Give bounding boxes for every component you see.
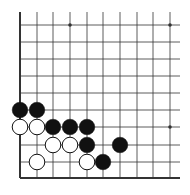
black-stone[interactable] bbox=[45, 119, 61, 135]
white-stone[interactable] bbox=[29, 154, 45, 170]
black-stone[interactable] bbox=[29, 102, 45, 118]
white-stone[interactable] bbox=[79, 154, 95, 170]
black-stone[interactable] bbox=[79, 119, 95, 135]
white-stone[interactable] bbox=[45, 137, 61, 153]
black-stone[interactable] bbox=[112, 137, 128, 153]
white-stone[interactable] bbox=[12, 119, 28, 135]
go-board[interactable] bbox=[0, 0, 190, 195]
star-point bbox=[168, 125, 172, 129]
black-stone[interactable] bbox=[79, 137, 95, 153]
white-stone[interactable] bbox=[62, 137, 78, 153]
white-stone[interactable] bbox=[29, 119, 45, 135]
board-grid bbox=[20, 12, 180, 178]
star-point bbox=[168, 23, 172, 27]
black-stone[interactable] bbox=[12, 102, 28, 118]
black-stone[interactable] bbox=[62, 119, 78, 135]
black-stone[interactable] bbox=[95, 154, 111, 170]
star-point bbox=[68, 23, 72, 27]
